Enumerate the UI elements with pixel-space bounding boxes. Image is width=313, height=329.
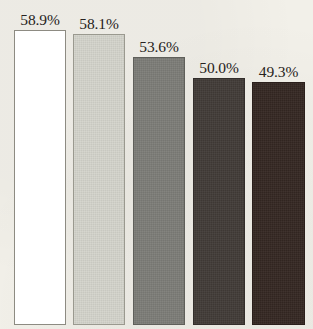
bar-value-label-1: 58.9% xyxy=(20,12,60,28)
bar-value-label-5: 49.3% xyxy=(259,64,299,80)
bar-chart: 58.9% 58.1% 53.6% 50.0% 49.3% xyxy=(0,0,313,329)
bar-group-1: 58.9% xyxy=(14,30,66,325)
bar-group-3: 53.6% xyxy=(133,57,185,325)
bar-rect-5 xyxy=(252,82,305,325)
bar-group-5: 49.3% xyxy=(252,82,305,325)
plot-area: 58.9% 58.1% 53.6% 50.0% 49.3% xyxy=(0,0,313,329)
bar-rect-1 xyxy=(14,30,66,325)
bar-rect-4 xyxy=(193,78,245,325)
bar-group-2: 58.1% xyxy=(73,34,125,325)
bar-value-label-3: 53.6% xyxy=(139,39,179,55)
bar-group-4: 50.0% xyxy=(193,78,245,325)
bar-rect-3 xyxy=(133,57,185,325)
bar-value-label-4: 50.0% xyxy=(199,60,239,76)
bar-rect-2 xyxy=(73,34,125,325)
bar-value-label-2: 58.1% xyxy=(79,16,119,32)
